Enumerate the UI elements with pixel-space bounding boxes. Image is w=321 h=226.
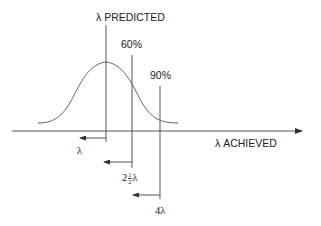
predicted-label: λ PREDICTED xyxy=(96,11,165,23)
diagram-svg xyxy=(0,0,321,226)
arrow-four-lambda-label: 4λ xyxy=(155,205,165,217)
lambda-symbol: λ xyxy=(133,172,138,183)
pct60-label: 60% xyxy=(121,38,142,50)
whole-part: 2 xyxy=(122,172,127,183)
diagram-canvas: λ PREDICTED 60% 90% λ ACHIEVED λ 212λ 4λ xyxy=(0,0,321,226)
pct90-label: 90% xyxy=(150,69,171,81)
arrow-lambda-label: λ xyxy=(77,145,82,157)
achieved-label: λ ACHIEVED xyxy=(215,137,277,149)
arrow-two-half-lambda-label: 212λ xyxy=(122,172,138,185)
fraction-half: 12 xyxy=(128,172,131,185)
